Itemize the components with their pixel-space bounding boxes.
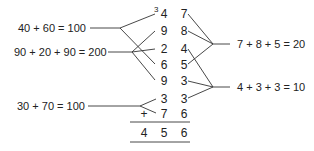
digit-tens-row-2: 9 xyxy=(159,25,169,37)
result-tens: 5 xyxy=(159,127,169,139)
digit-ones-row-5: 3 xyxy=(179,75,189,87)
equation-30-70: 30 + 70 = 100 xyxy=(17,101,85,112)
result-ones: 6 xyxy=(179,127,189,139)
equation-40-60: 40 + 60 = 100 xyxy=(18,23,86,34)
digit-tens-row-5: 9 xyxy=(159,75,169,87)
plus-operator: + xyxy=(139,108,149,120)
digit-tens-row-3: 2 xyxy=(159,43,169,55)
carry-digit: 3 xyxy=(154,6,158,14)
result-hundreds: 4 xyxy=(139,127,149,139)
digit-tens-row-6: 3 xyxy=(159,93,169,105)
equation-7-8-5: 7 + 8 + 5 = 20 xyxy=(237,39,305,50)
digit-tens-row-4: 6 xyxy=(159,59,169,71)
digit-ones-row-1: 7 xyxy=(179,8,189,20)
digit-ones-row-2: 8 xyxy=(179,25,189,37)
digit-ones-row-4: 5 xyxy=(179,59,189,71)
equation-90-20-90: 90 + 20 + 90 = 200 xyxy=(14,47,107,58)
digit-tens-row-7: 7 xyxy=(159,108,169,120)
digit-ones-row-7: 6 xyxy=(179,108,189,120)
digit-ones-row-3: 4 xyxy=(179,43,189,55)
digit-tens-row-1: 4 xyxy=(159,8,169,20)
equation-4-3-3: 4 + 3 + 3 = 10 xyxy=(237,82,305,93)
digit-ones-row-6: 3 xyxy=(179,93,189,105)
